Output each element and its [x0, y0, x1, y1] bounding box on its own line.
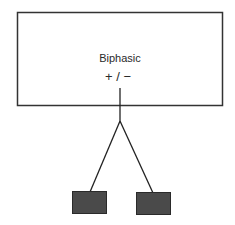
left-electrode: [73, 192, 107, 214]
lead-branch-right: [120, 121, 153, 193]
biphasic-diagram: Biphasic + / −: [0, 0, 235, 225]
lead-branch-left: [90, 121, 120, 192]
polarity-label: + / −: [105, 69, 131, 84]
device-title: Biphasic: [99, 52, 141, 64]
right-electrode: [137, 193, 171, 215]
